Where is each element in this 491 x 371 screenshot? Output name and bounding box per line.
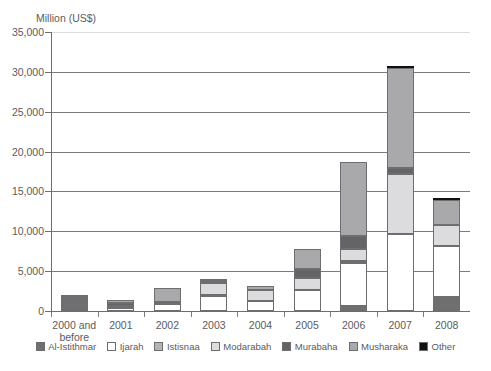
bar-segment-murabaha[interactable] xyxy=(200,281,227,283)
y-axis-label: 25,000 xyxy=(12,106,44,118)
legend-swatch-al-istithmar-icon xyxy=(36,342,45,351)
y-axis-label: 30,000 xyxy=(12,66,44,78)
y-axis-label: 15,000 xyxy=(12,185,44,197)
x-tick xyxy=(330,312,331,317)
legend-label: Al-Istithmar xyxy=(48,341,96,352)
y-axis-label: 10,000 xyxy=(12,225,44,237)
bar-segment-istisnaa[interactable] xyxy=(340,261,367,263)
legend-swatch-other-icon xyxy=(419,342,428,351)
legend-item-other[interactable]: Other xyxy=(419,341,455,352)
bar-stack[interactable] xyxy=(61,295,88,312)
legend-item-musharaka[interactable]: Musharaka xyxy=(349,341,409,352)
legend-label: Istisnaa xyxy=(167,341,200,352)
x-tick xyxy=(237,312,238,317)
bar-stack[interactable] xyxy=(387,65,414,311)
bar-segment-modarabah[interactable] xyxy=(200,283,227,295)
bar-segment-modarabah[interactable] xyxy=(107,306,134,309)
y-axis-title: Million (US$) xyxy=(36,12,96,24)
bar-stack[interactable] xyxy=(433,199,460,311)
bar-segment-musharaka[interactable] xyxy=(154,288,181,302)
legend-swatch-murabaha-icon xyxy=(282,342,291,351)
legend-label: Musharaka xyxy=(361,341,408,352)
legend-item-ijarah[interactable]: Ijarah xyxy=(107,341,143,352)
bar-stack[interactable] xyxy=(340,162,367,311)
bar-stack[interactable] xyxy=(154,288,181,311)
bar-segment-ijarah[interactable] xyxy=(387,234,414,311)
bar-stack[interactable] xyxy=(107,300,134,311)
legend-item-istisnaa[interactable]: Istisnaa xyxy=(154,341,199,352)
x-tick xyxy=(191,312,192,317)
x-axis-label: 2008 xyxy=(412,319,482,331)
legend-label: Murabaha xyxy=(295,341,338,352)
bar-segment-murabaha[interactable] xyxy=(387,168,414,174)
bar-series-container xyxy=(51,32,470,311)
bar-segment-musharaka[interactable] xyxy=(107,300,134,303)
bar-segment-musharaka[interactable] xyxy=(387,68,414,168)
chart-legend: Al-IstithmarIjarahIstisnaaModarabahMurab… xyxy=(0,341,491,352)
legend-item-modarabah[interactable]: Modarabah xyxy=(211,341,272,352)
bar-segment-musharaka[interactable] xyxy=(294,249,321,269)
bar-segment-other[interactable] xyxy=(433,198,460,200)
x-tick xyxy=(284,312,285,317)
legend-swatch-ijarah-icon xyxy=(107,342,116,351)
legend-swatch-istisnaa-icon xyxy=(154,342,163,351)
x-tick xyxy=(98,312,99,317)
bar-segment-ijarah[interactable] xyxy=(294,290,321,311)
bar-stack[interactable] xyxy=(247,286,274,312)
bar-segment-alistithmar[interactable] xyxy=(340,306,367,311)
legend-item-alistithmar[interactable]: Al-Istithmar xyxy=(36,341,97,352)
bar-segment-alistithmar[interactable] xyxy=(433,297,460,311)
x-tick xyxy=(423,312,424,317)
bar-stack[interactable] xyxy=(294,249,321,311)
bar-segment-modarabah[interactable] xyxy=(387,174,414,234)
x-tick xyxy=(377,312,378,317)
bar-segment-murabaha[interactable] xyxy=(107,303,134,306)
bar-segment-modarabah[interactable] xyxy=(340,249,367,261)
bar-segment-musharaka[interactable] xyxy=(433,200,460,225)
bar-segment-modarabah[interactable] xyxy=(433,225,460,247)
bar-segment-murabaha[interactable] xyxy=(340,236,367,248)
bar-segment-other[interactable] xyxy=(387,66,414,69)
bar-segment-ijarah[interactable] xyxy=(154,304,181,311)
y-axis-label: 5,000 xyxy=(18,265,44,277)
bar-segment-ijarah[interactable] xyxy=(433,246,460,297)
bar-segment-ijarah[interactable] xyxy=(107,308,134,311)
y-axis-label: 35,000 xyxy=(12,26,44,38)
bar-segment-modarabah[interactable] xyxy=(294,278,321,291)
bar-segment-ijarah[interactable] xyxy=(340,263,367,306)
bar-segment-murabaha[interactable] xyxy=(154,302,181,304)
legend-label: Ijarah xyxy=(120,341,144,352)
legend-swatch-musharaka-icon xyxy=(349,342,358,351)
stacked-bar-chart: Million (US$) 05,00010,00015,00020,00025… xyxy=(0,0,491,371)
bar-segment-musharaka[interactable] xyxy=(340,162,367,237)
y-axis-label: 0 xyxy=(38,305,44,317)
bar-segment-alistithmar[interactable] xyxy=(61,295,88,312)
legend-item-murabaha[interactable]: Murabaha xyxy=(282,341,337,352)
bar-stack[interactable] xyxy=(200,279,227,311)
x-tick xyxy=(144,312,145,317)
x-tick xyxy=(51,312,52,317)
bar-segment-musharaka[interactable] xyxy=(247,286,274,290)
x-axis-line xyxy=(51,311,470,312)
legend-swatch-modarabah-icon xyxy=(211,342,220,351)
legend-label: Modarabah xyxy=(223,341,271,352)
bar-segment-ijarah[interactable] xyxy=(200,296,227,311)
legend-label: Other xyxy=(432,341,456,352)
bar-segment-modarabah[interactable] xyxy=(247,290,274,301)
bar-segment-murabaha[interactable] xyxy=(294,269,321,278)
bar-segment-musharaka[interactable] xyxy=(200,279,227,281)
y-axis-labels: 05,00010,00015,00020,00025,00030,00035,0… xyxy=(0,32,44,312)
y-axis-label: 20,000 xyxy=(12,146,44,158)
bar-segment-ijarah[interactable] xyxy=(247,301,274,311)
